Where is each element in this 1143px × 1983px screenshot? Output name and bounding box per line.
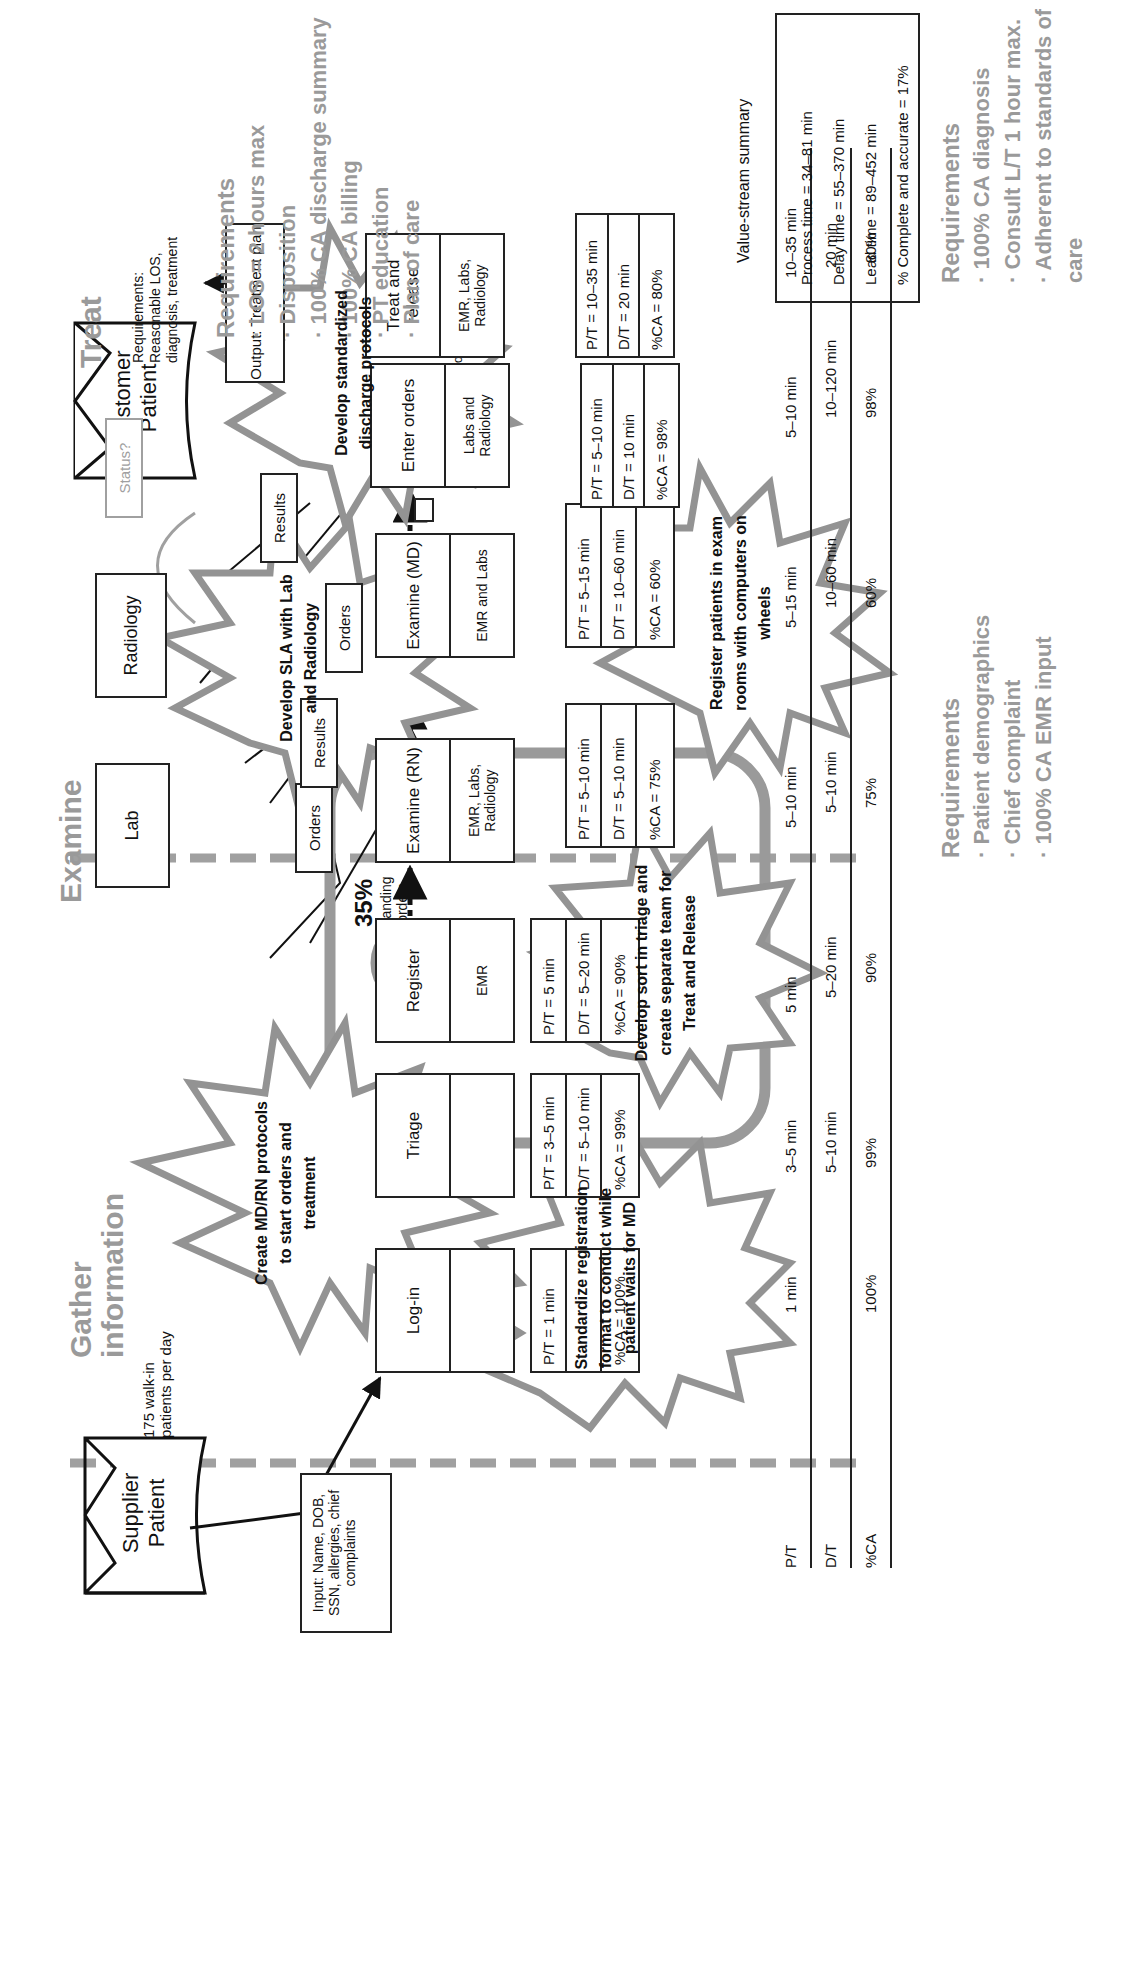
data-box-enter-orders: P/T = 5–10 minD/T = 10 min%CA = 98% bbox=[580, 363, 680, 508]
kaizen-text-5: Develop standardized discharge protocols bbox=[330, 263, 378, 483]
phase-title-gather: Gather information bbox=[65, 1248, 129, 1358]
process-examine-md: Examine (MD) EMR and Labs bbox=[375, 533, 515, 658]
walkins-note: 175 walk-in patients per day bbox=[140, 1323, 174, 1438]
process-login: Log-in bbox=[375, 1248, 515, 1373]
phase-title-examine: Examine bbox=[55, 780, 87, 903]
kaizen-text-0: Create MD/RN protocols to start orders a… bbox=[250, 1093, 322, 1293]
requirements-gather: Requirements · Patient demographics · Ch… bbox=[935, 478, 1059, 858]
orders-flow-1: Orders bbox=[295, 783, 333, 873]
data-box-treat-release: P/T = 10–35 minD/T = 20 min%CA = 80% bbox=[575, 213, 675, 358]
data-box-examine-rn: P/T = 5–10 minD/T = 5–10 min%CA = 75% bbox=[565, 703, 675, 848]
summary-title: Value-stream summary bbox=[735, 99, 753, 263]
lab-box: Lab bbox=[95, 763, 170, 888]
data-box-register: P/T = 5 minD/T = 5–20 min%CA = 90% bbox=[530, 918, 640, 1043]
requirements-examine: Requirements · 100% CA diagnosis · Consu… bbox=[935, 0, 1090, 283]
requirements-treat: Requirements · LOS = 2 hours max · Dispo… bbox=[210, 0, 427, 338]
status-box: Status? bbox=[105, 418, 143, 518]
radiology-box: Radiology bbox=[95, 573, 167, 698]
supplier-label: Supplier Patient bbox=[118, 1448, 170, 1578]
data-box-examine-md: P/T = 5–15 minD/T = 10–60 min%CA = 60% bbox=[565, 503, 675, 648]
kaizen-text-3: Develop SLA with Lab and Radiology bbox=[275, 558, 323, 758]
kaizen-text-1: Standardize registration format to condu… bbox=[570, 1173, 642, 1383]
kaizen-text-4: Register patients in exam rooms with com… bbox=[705, 498, 777, 728]
process-enter-orders: Enter orders Labs and Radiology bbox=[370, 363, 510, 488]
kaizen-text-2: Develop sort in triage and create separa… bbox=[630, 853, 702, 1073]
process-triage: Triage bbox=[375, 1073, 515, 1198]
value-stream-summary: Process time = 34–81 min Delay time = 55… bbox=[775, 13, 920, 303]
value-stream-map: Gather information Examine Treat Supplie… bbox=[0, 0, 1143, 1983]
timeline: P/T D/T %CA 1 min 3–5 min 5 min 5–10 min… bbox=[770, 148, 890, 1568]
results-flow-2: Results bbox=[260, 473, 298, 563]
treat-small-requirements: Requirements: Reasonable LOS, diagnosis,… bbox=[130, 203, 181, 363]
process-register: Register EMR bbox=[375, 918, 515, 1043]
phase-title-treat: Treat bbox=[75, 296, 107, 368]
orders-flow-2: Orders bbox=[325, 583, 363, 673]
input-box: Input: Name, DOB, SSN, allergies, chief … bbox=[300, 1473, 392, 1633]
process-examine-rn: Examine (RN) EMR, Labs, Radiology bbox=[375, 738, 515, 863]
